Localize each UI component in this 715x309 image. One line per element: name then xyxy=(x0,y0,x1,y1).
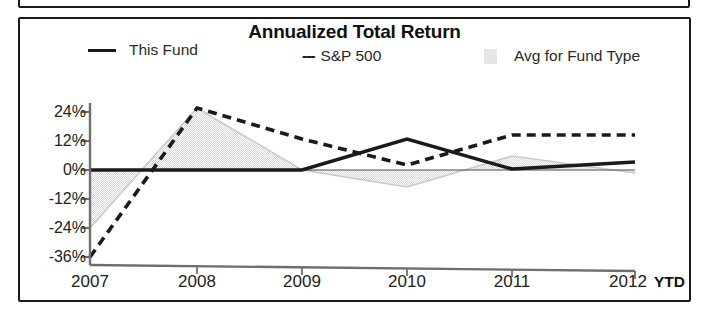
x-tick-label-2008: 2008 xyxy=(178,272,216,292)
series-line-sp500 xyxy=(90,108,635,257)
annualized-total-return-chart-panel: Annualized Total Return This Fund --- S&… xyxy=(18,17,691,302)
plot-area xyxy=(20,19,691,302)
y-tick-label: -12% xyxy=(18,190,86,208)
x-tick-label-2007: 2007 xyxy=(71,272,109,292)
y-tick-label: 12% xyxy=(18,132,86,150)
x-axis-ytd-label: YTD xyxy=(654,273,685,291)
y-tick-label: 24% xyxy=(18,103,86,121)
x-tick-label-2011: 2011 xyxy=(494,272,531,292)
above-panel-fragment xyxy=(18,0,690,8)
x-tick-label-2010: 2010 xyxy=(388,272,426,292)
x-tick-label-2012: 2012 xyxy=(609,272,647,292)
y-axis-labels: 24% 12% 0% -12% -24% -36% xyxy=(20,19,86,300)
x-tick-label-2009: 2009 xyxy=(283,272,321,292)
y-tick-label: -36% xyxy=(18,248,86,266)
y-tick-label: 0% xyxy=(18,161,86,179)
x-axis-spine xyxy=(90,265,635,271)
y-tick-label: -24% xyxy=(18,219,86,237)
